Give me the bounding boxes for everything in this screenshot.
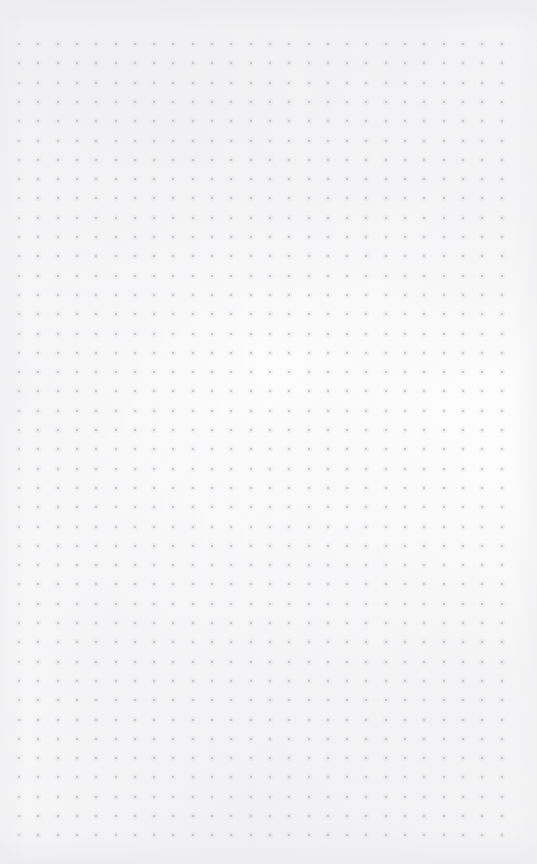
page-content-area[interactable] (0, 0, 537, 864)
notebook-page (0, 0, 537, 864)
